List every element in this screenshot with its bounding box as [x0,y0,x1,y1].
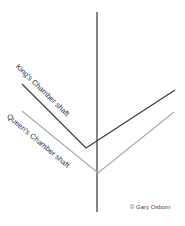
copyright-text: © Gary Osborn [130,204,170,210]
pyramid-shafts-diagram [0,0,185,226]
